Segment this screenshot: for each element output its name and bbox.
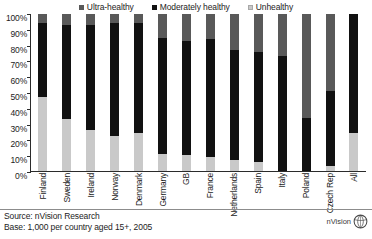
bar-segment[interactable] (326, 14, 335, 91)
bar-segment[interactable] (206, 157, 215, 171)
x-axis-label-slot: Italy (270, 173, 294, 209)
y-axis-tick-label: 20% (0, 140, 27, 149)
chart-legend: Ultra-healthy Moderately healthy Unhealt… (0, 1, 372, 13)
bar-segment[interactable] (86, 130, 95, 171)
legend-item-moderately-healthy[interactable]: Moderately healthy (152, 3, 230, 12)
x-axis-tick-label: Italy (278, 173, 287, 188)
stacked-bar[interactable] (230, 14, 239, 171)
bar-segment[interactable] (62, 119, 71, 171)
y-axis-tick-label: 100% (0, 14, 27, 23)
legend-item-unhealthy[interactable]: Unhealthy (248, 3, 293, 12)
stacked-bar[interactable] (326, 14, 335, 171)
bar-segment[interactable] (206, 14, 215, 39)
x-axis-label-slot: Denmark (127, 173, 151, 209)
bar-segment[interactable] (326, 91, 335, 166)
x-axis-label-slot: GB (175, 173, 199, 209)
stacked-bar[interactable] (62, 14, 71, 171)
bar-segment[interactable] (38, 23, 47, 97)
source-line: Source: nVision Research (4, 211, 304, 222)
bar-slot (127, 14, 151, 171)
bar-segment[interactable] (38, 14, 47, 23)
bar-segment[interactable] (86, 14, 95, 25)
bar-slot (151, 14, 175, 171)
x-axis-labels: FinlandSwedenIrelandNorwayDenmarkGermany… (31, 173, 366, 209)
bar-segment[interactable] (278, 14, 287, 56)
square-swatch-icon (79, 5, 84, 10)
x-axis-label-slot: Sweden (55, 173, 79, 209)
bar-segment[interactable] (230, 50, 239, 160)
bar-segment[interactable] (158, 38, 167, 154)
bar-segment[interactable] (254, 14, 263, 52)
logo-text: nVision (327, 217, 351, 226)
bar-segment[interactable] (326, 166, 335, 171)
stacked-bar[interactable] (206, 14, 215, 171)
bar-segment[interactable] (278, 56, 287, 171)
globe-icon (353, 214, 368, 229)
y-axis-tick-label: 60% (0, 77, 27, 86)
bar-segment[interactable] (158, 14, 167, 38)
bar-segment[interactable] (230, 160, 239, 171)
stacked-bar[interactable] (278, 14, 287, 171)
bar-slot (55, 14, 79, 171)
bar-slot (103, 14, 127, 171)
x-axis-label-slot: All (342, 173, 366, 209)
x-axis-tick-label: France (206, 173, 215, 198)
legend-label: Unhealthy (256, 3, 293, 12)
stacked-bar[interactable] (254, 14, 263, 171)
x-axis-label-slot: Poland (294, 173, 318, 209)
bar-segment[interactable] (134, 14, 143, 23)
y-axis-tick-label: 30% (0, 125, 27, 134)
x-axis-tick-label: Ireland (86, 173, 95, 198)
stacked-bar[interactable] (110, 14, 119, 171)
x-axis-label-slot: Spain (246, 173, 270, 209)
bar-segment[interactable] (110, 23, 119, 136)
bar-segment[interactable] (86, 25, 95, 130)
x-axis-tick-label: GB (182, 173, 191, 185)
stacked-bar[interactable] (158, 14, 167, 171)
bar-segment[interactable] (134, 133, 143, 171)
bar-segment[interactable] (182, 41, 191, 156)
bar-segment[interactable] (38, 97, 47, 171)
legend-label: Ultra-healthy (87, 3, 134, 12)
bar-segment[interactable] (349, 14, 358, 133)
bar-slot (270, 14, 294, 171)
bar-segment[interactable] (182, 155, 191, 171)
bar-segment[interactable] (62, 14, 71, 25)
x-axis-tick-label: Finland (38, 173, 47, 199)
y-axis-labels: 100%90%80%70%60%50%40%30%20%10%0% (0, 8, 27, 178)
nvision-logo: nVision (327, 214, 368, 229)
bar-slot (246, 14, 270, 171)
stacked-bar[interactable] (134, 14, 143, 171)
bar-segment[interactable] (349, 133, 358, 171)
x-axis-label-slot: Norway (103, 173, 127, 209)
stacked-bar[interactable] (86, 14, 95, 171)
bar-segment[interactable] (62, 25, 71, 119)
stacked-bar[interactable] (349, 14, 358, 171)
bar-segment[interactable] (206, 39, 215, 157)
x-axis-label-slot: Finland (31, 173, 55, 209)
x-axis-label-slot: Netherlands (222, 173, 246, 209)
y-axis-tick-label: 50% (0, 93, 27, 102)
stacked-bar-chart: Ultra-healthy Moderately healthy Unhealt… (0, 0, 372, 239)
bar-segment[interactable] (254, 52, 263, 162)
x-axis-label-slot: Germany (151, 173, 175, 209)
bar-segment[interactable] (182, 14, 191, 41)
bar-segment[interactable] (302, 118, 311, 171)
stacked-bar[interactable] (38, 14, 47, 171)
legend-item-ultra-healthy[interactable]: Ultra-healthy (79, 3, 134, 12)
bar-segment[interactable] (302, 14, 311, 118)
bar-segment[interactable] (254, 162, 263, 171)
bar-segment[interactable] (110, 14, 119, 23)
x-axis-tick-label: Spain (254, 173, 263, 194)
bar-segment[interactable] (110, 136, 119, 171)
y-axis-tick-label: 40% (0, 109, 27, 118)
legend-label: Moderately healthy (160, 3, 230, 12)
x-axis-tick-label: Poland (302, 173, 311, 198)
bar-segment[interactable] (230, 14, 239, 50)
bar-segment[interactable] (158, 154, 167, 171)
y-axis-tick-label: 80% (0, 46, 27, 55)
bar-segment[interactable] (134, 23, 143, 133)
stacked-bar[interactable] (182, 14, 191, 171)
footer-notes: Source: nVision Research Base: 1,000 per… (4, 211, 304, 233)
stacked-bar[interactable] (302, 14, 311, 171)
